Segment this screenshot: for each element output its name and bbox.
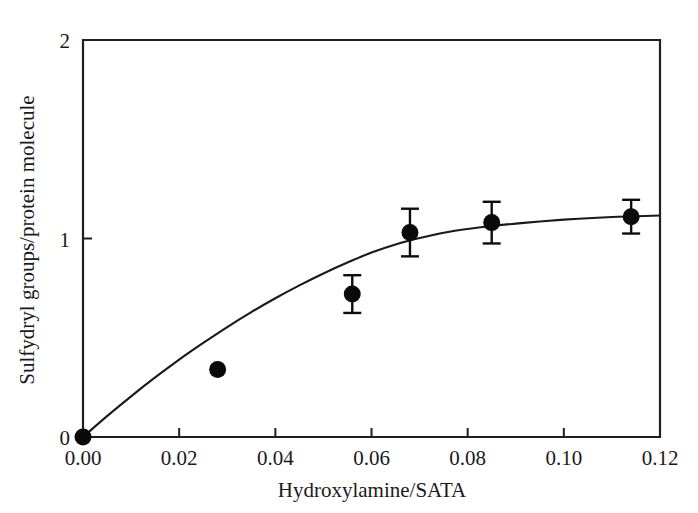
y-axis-label: Sulfydryl groups/protein molecule — [15, 95, 39, 384]
x-tick-label-0.04: 0.04 — [257, 446, 294, 470]
data-point-1 — [209, 361, 226, 378]
x-tick-label-0.02: 0.02 — [161, 446, 198, 470]
figure-container: 0.000.020.040.060.080.100.12 012 Hydroxy… — [0, 0, 698, 513]
y-tick-label-1: 1 — [60, 228, 71, 252]
x-axis-ticks — [83, 428, 660, 437]
x-tick-label-0.06: 0.06 — [353, 446, 390, 470]
data-point-0 — [75, 429, 92, 446]
data-point-2 — [344, 286, 361, 303]
y-axis-tick-labels: 012 — [60, 29, 71, 450]
chart-canvas: 0.000.020.040.060.080.100.12 012 Hydroxy… — [0, 0, 698, 513]
y-tick-label-0: 0 — [60, 426, 71, 450]
data-point-3 — [401, 224, 418, 241]
plot-frame — [83, 40, 660, 437]
axes-frame — [83, 40, 660, 437]
x-tick-label-0.12: 0.12 — [642, 446, 679, 470]
fit-curve — [83, 215, 660, 437]
data-point-4 — [483, 214, 500, 231]
x-tick-label-0.00: 0.00 — [65, 446, 102, 470]
x-tick-label-0.10: 0.10 — [545, 446, 582, 470]
y-axis-ticks — [83, 40, 92, 437]
x-tick-label-0.08: 0.08 — [449, 446, 486, 470]
data-point-5 — [623, 208, 640, 225]
y-tick-label-2: 2 — [60, 29, 71, 53]
x-axis-label: Hydroxylamine/SATA — [278, 478, 467, 502]
data-points — [75, 208, 640, 445]
fit-curve-path — [83, 215, 660, 437]
x-axis-tick-labels: 0.000.020.040.060.080.100.12 — [65, 446, 679, 470]
